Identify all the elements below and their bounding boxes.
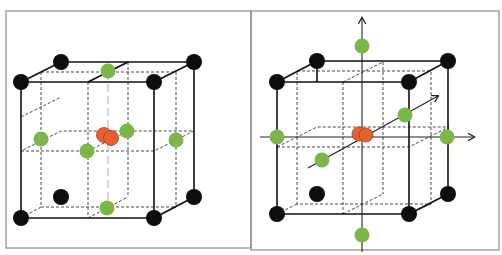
ligand-right	[440, 130, 455, 145]
corner-atom	[309, 186, 325, 202]
right-panel	[251, 11, 499, 252]
ligand-left	[34, 132, 49, 147]
corner-atom	[440, 186, 456, 202]
corner-atom	[269, 74, 285, 90]
corner-atom	[401, 206, 417, 222]
right-central-ion	[352, 127, 373, 142]
corner-atom	[13, 210, 29, 226]
lattice-diagram	[0, 0, 502, 255]
ligand-top	[355, 39, 370, 54]
ligand-bottom	[100, 201, 115, 216]
ligand-front	[80, 144, 95, 159]
corner-atom	[186, 54, 202, 70]
corner-atom	[186, 189, 202, 205]
left-central-ion	[97, 128, 119, 146]
left-panel	[6, 11, 251, 248]
corner-atom	[53, 189, 69, 205]
ligand-bottom	[355, 228, 370, 243]
corner-atom	[146, 74, 162, 90]
corner-atom	[53, 54, 69, 70]
ligand-back	[398, 108, 413, 123]
ligand-back	[120, 124, 135, 139]
ligand-front	[315, 153, 330, 168]
corner-atom	[146, 210, 162, 226]
corner-atom	[309, 53, 325, 69]
ligand-right	[169, 133, 184, 148]
ligand-left	[270, 130, 285, 145]
ligand-top	[101, 64, 116, 79]
corner-atom	[440, 53, 456, 69]
corner-atom	[269, 206, 285, 222]
corner-atom	[13, 74, 29, 90]
corner-atom	[401, 74, 417, 90]
